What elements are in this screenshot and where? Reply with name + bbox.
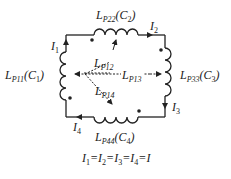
mutual-label-p12: LP12: [94, 57, 114, 74]
current-label-i3: I3: [172, 101, 180, 118]
inductor-right-coil: [165, 48, 171, 96]
polarity-dot-top: [90, 38, 94, 42]
mutual-label-p14: LP14: [95, 85, 115, 102]
current-label-i4: I4: [73, 121, 81, 138]
mutual-arrow-p12-top: [113, 40, 116, 50]
inductor-left-coil: [60, 52, 66, 100]
current-label-i1: I1: [51, 40, 59, 57]
current-equation: I1=I2=I3=I4=I: [82, 152, 150, 169]
polarity-dot-bottom: [137, 109, 141, 113]
inductor-top-label: LP22(C2): [96, 9, 136, 26]
polarity-dot-right: [159, 48, 163, 52]
current-arrow-i1-icon: [63, 39, 69, 45]
inductor-right-label: LP33(C3): [180, 69, 220, 86]
inductor-bottom-coil: [94, 117, 138, 123]
mutual-label-p13: LP13: [121, 69, 143, 86]
current-arrow-i3-icon: [162, 103, 168, 109]
polarity-dot-left: [68, 96, 72, 100]
current-label-i2: I2: [150, 20, 158, 37]
inductor-bottom-label: LP44(C4): [95, 131, 135, 148]
inductor-top-coil: [94, 29, 138, 35]
inductor-left-label: LP11(C1): [5, 69, 44, 86]
